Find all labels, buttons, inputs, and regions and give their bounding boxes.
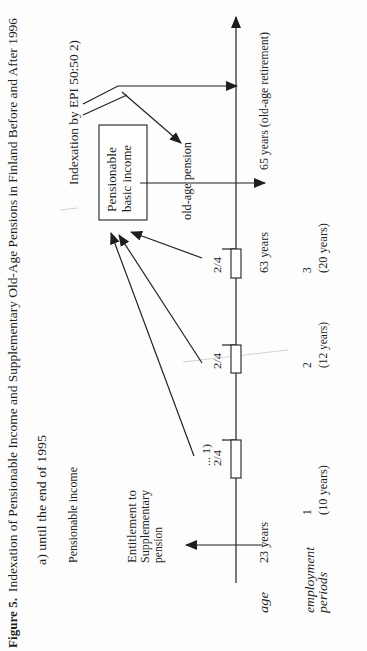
accrual-fraction: 2/4 <box>212 353 223 369</box>
period-number: 1 <box>301 509 313 515</box>
period-duration: (20 years) <box>317 223 330 273</box>
pension-indexation-diagram: Figure 5. Indexation of Pensionable Inco… <box>0 0 367 651</box>
period-duration: (10 years) <box>317 465 330 515</box>
age-row-label: age <box>258 592 271 613</box>
basic-income-line2: basic income <box>121 145 133 212</box>
period-box <box>231 440 241 478</box>
period-1-marker: 2/4 ... 1) <box>201 440 241 478</box>
entitlement-label: Entitlement to Supplementary pension <box>126 490 165 563</box>
scan-artifact-line <box>60 208 78 210</box>
employment-row-label-line1: employment <box>304 546 317 613</box>
accrual-arrow-period-2 <box>119 235 202 363</box>
entitlement-line3: pension <box>152 527 165 563</box>
employment-period-3: 3 (20 years) <box>301 223 330 273</box>
employment-row-label-line2: periods <box>317 571 330 614</box>
basic-income-line1: Pensionable <box>106 147 118 212</box>
indexation-arrow-to-retirement <box>83 86 237 104</box>
period-3-marker: 2/4 <box>212 249 241 278</box>
figure-number: Figure 5. <box>5 598 20 648</box>
entitlement-line1: Entitlement to <box>126 490 138 563</box>
figure-title: Indexation of Pensionable Income and Sup… <box>5 17 20 592</box>
period-number: 2 <box>301 362 313 368</box>
period-box <box>231 345 241 373</box>
period-2-marker: 2/4 <box>212 345 241 373</box>
old-age-pension-label: old-age pension <box>181 142 194 220</box>
accrual-fraction: 2/4 <box>212 257 223 273</box>
employment-period-2: 2 (12 years) <box>301 322 330 368</box>
title-block: Figure 5. Indexation of Pensionable Inco… <box>5 17 49 648</box>
pensionable-income-label: Pensionable income <box>67 467 79 563</box>
period-box <box>231 249 241 278</box>
entitlement-line2: Supplementary <box>139 490 152 563</box>
indexation-line-to-pension <box>83 95 127 115</box>
age-23-label: 23 years <box>258 521 271 563</box>
period-duration: (12 years) <box>317 322 330 368</box>
accrual-arrow-period-1 <box>111 233 194 456</box>
retirement-age-label: 65 years (old-age retirement) <box>258 32 271 170</box>
indexation-group: Indexation by EPI 50:50 2) old-age pensi… <box>68 40 237 220</box>
accrual-arrow-period-3 <box>131 232 202 258</box>
indexation-label: Indexation by EPI 50:50 2) <box>68 40 81 185</box>
footnote-marker: ... 1) <box>201 444 213 466</box>
age-63-label: 63 years <box>258 231 271 273</box>
figure-subtitle: a) until the end of 1995 <box>35 435 49 565</box>
employment-period-1: 1 (10 years) <box>301 465 330 515</box>
period-number: 3 <box>301 267 313 273</box>
accrual-fraction: 2/4 <box>212 450 223 466</box>
